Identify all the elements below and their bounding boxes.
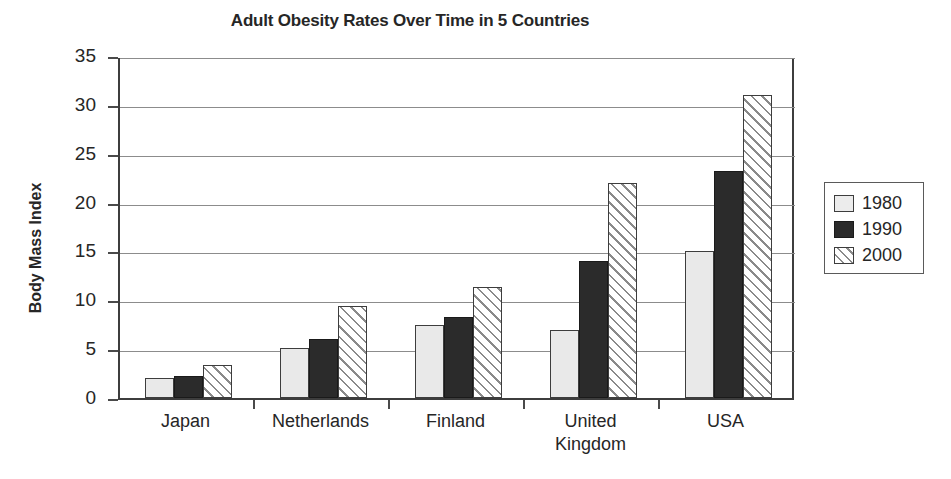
x-category-label-line: Kingdom [523,433,658,456]
chart-legend: 1980 1990 2000 [824,182,924,274]
bar-finland-1990 [444,317,473,398]
bar-united-kingdom-1980 [550,330,579,398]
legend-label: 1980 [862,193,902,214]
bar-chart: Adult Obesity Rates Over Time in 5 Count… [0,0,951,479]
x-category-label-finland: Finland [388,410,523,433]
x-category-label-usa: USA [658,410,793,433]
gridline [120,107,795,108]
x-category-label-netherlands: Netherlands [253,410,388,433]
y-tick-label: 15 [36,240,96,262]
y-tick-mark [108,155,118,157]
y-tick-mark [108,204,118,206]
plot-area [118,58,793,400]
bar-japan-1980 [145,378,174,398]
legend-item-2000: 2000 [834,242,923,268]
dark-square-swatch-icon [834,221,854,238]
x-category-label-line: Finland [426,411,485,431]
legend-label: 1990 [862,219,902,240]
light-square-swatch-icon [834,195,854,212]
y-tick-label: 0 [36,387,96,409]
x-tick-mark [523,400,525,409]
y-tick-mark [108,106,118,108]
x-category-label-line: Netherlands [272,411,369,431]
hatched-square-swatch-icon [834,247,854,264]
bar-finland-2000 [473,287,502,398]
y-tick-label: 10 [36,289,96,311]
bar-netherlands-1990 [309,339,338,398]
bar-netherlands-1980 [280,348,309,398]
y-tick-label: 20 [36,192,96,214]
y-tick-label: 35 [36,45,96,67]
y-tick-mark [108,57,118,59]
bar-finland-1980 [415,325,444,398]
bar-usa-1980 [685,251,714,398]
x-tick-mark [253,400,255,409]
legend-item-1990: 1990 [834,216,923,242]
y-tick-label: 25 [36,143,96,165]
y-tick-mark [108,252,118,254]
legend-label: 2000 [862,245,902,266]
x-tick-mark [658,400,660,409]
y-tick-label: 5 [36,338,96,360]
bar-united-kingdom-2000 [608,183,637,398]
gridline [120,205,795,206]
x-category-label-line: USA [707,411,744,431]
chart-title: Adult Obesity Rates Over Time in 5 Count… [0,11,820,31]
y-tick-label: 30 [36,94,96,116]
y-tick-mark [108,399,118,401]
bar-japan-1990 [174,376,203,398]
y-tick-mark [108,301,118,303]
x-category-label-japan: Japan [118,410,253,433]
bar-netherlands-2000 [338,306,367,398]
x-tick-mark [388,400,390,409]
gridline [120,58,795,59]
bar-united-kingdom-1990 [579,261,608,398]
bar-japan-2000 [203,365,232,398]
y-tick-mark [108,350,118,352]
bar-usa-1990 [714,171,743,398]
legend-item-1980: 1980 [834,190,923,216]
x-category-label-united-kingdom: UnitedKingdom [523,410,658,457]
x-category-label-line: United [564,411,616,431]
x-category-label-line: Japan [161,411,210,431]
gridline [120,156,795,157]
bar-usa-2000 [743,95,772,398]
